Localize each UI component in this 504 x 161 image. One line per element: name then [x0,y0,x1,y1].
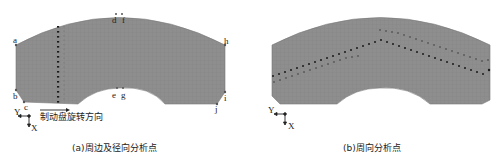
caption-b: (b)周向分析点 [343,142,401,153]
axis-label-y-a: Y [14,107,21,117]
point-label-d: d [112,15,117,25]
brake-pad-mesh-b [272,18,490,105]
point-label-g: g [121,90,126,100]
axis-label-x-a: X [31,123,38,133]
point-label-h: h [224,36,229,46]
point-label-i: i [224,93,227,103]
panel-b: Y X (b)周向分析点 [268,18,490,154]
point-label-c: c [24,102,28,112]
caption-a: (a)周边及径向分析点 [72,142,157,153]
point-label-a: a [13,35,17,45]
axis-label-x-b: X [288,121,295,131]
figure-canvas: a b c d f e g h i j 制动盘旋转方向 Y X (a)周边及径向… [0,0,504,161]
point-label-f: f [122,15,125,25]
rotation-direction-label: 制动盘旋转方向 [40,111,103,122]
point-label-e: e [112,90,116,100]
point-label-b-left: b [13,91,18,101]
axis-triad-b-icon [274,113,287,126]
axis-label-y-b: Y [268,105,275,115]
panel-a: a b c d f e g h i j 制动盘旋转方向 Y X (a)周边及径向… [13,13,229,153]
point-label-j: j [214,104,218,114]
